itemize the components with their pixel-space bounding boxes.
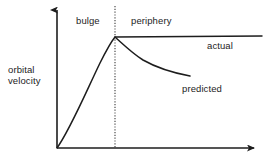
series-label-predicted: predicted: [182, 83, 222, 94]
y-axis-label-line1: orbital: [8, 64, 35, 75]
region-label-periphery: periphery: [131, 15, 172, 26]
y-axis-label: orbitalvelocity: [8, 64, 40, 86]
rotation-curve-figure: orbitalvelocity bulge periphery actual p…: [0, 0, 269, 160]
y-axis-label-line2: velocity: [8, 75, 40, 86]
region-label-bulge: bulge: [76, 15, 100, 26]
series-label-actual: actual: [207, 40, 233, 51]
actual-curve: [57, 36, 262, 148]
predicted-curve: [115, 37, 190, 76]
